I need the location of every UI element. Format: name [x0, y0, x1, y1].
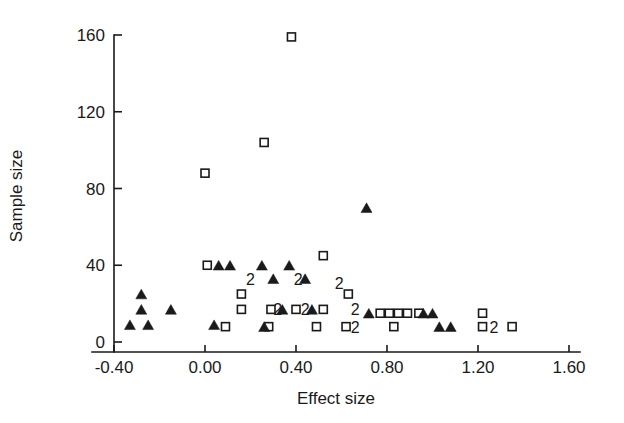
data-point-square [479, 309, 487, 317]
data-point-triangle [143, 320, 154, 330]
axis-ticks [114, 35, 569, 352]
data-point-square [287, 33, 295, 41]
data-point-square [237, 305, 245, 313]
y-tick-label: 160 [77, 26, 105, 45]
duplicate-count-label: 2 [246, 271, 255, 288]
data-point-square [508, 323, 516, 331]
data-point-square [385, 309, 393, 317]
data-point-square [390, 323, 398, 331]
data-point-triangle [268, 274, 279, 284]
scatter-plot-canvas: -0.400.000.400.801.201.60 04080120160 22… [0, 0, 624, 423]
data-point-triangle [363, 308, 374, 318]
x-tick-label: 1.20 [461, 358, 494, 377]
x-tick-label: 0.80 [370, 358, 403, 377]
data-point-square [319, 252, 327, 260]
duplicate-count-label: 2 [294, 271, 303, 288]
x-tick-label: -0.40 [95, 358, 134, 377]
data-point-triangle [434, 322, 445, 332]
data-point-square [292, 305, 300, 313]
data-point-triangle [136, 289, 147, 299]
data-point-square [394, 309, 402, 317]
y-axis-tick-labels: 04080120160 [77, 26, 105, 352]
data-point-square [312, 323, 320, 331]
data-point-triangle [361, 203, 372, 213]
duplicate-count-label: 2 [351, 319, 360, 336]
data-point-square [479, 323, 487, 331]
x-tick-label: 1.60 [552, 358, 585, 377]
data-point-triangle [165, 305, 176, 315]
data-point-square [319, 305, 327, 313]
x-axis-title: Effect size [297, 389, 375, 408]
data-point-square [221, 323, 229, 331]
data-point-triangle [209, 320, 220, 330]
data-point-triangle [284, 260, 295, 270]
data-point-square [342, 323, 350, 331]
data-point-square [376, 309, 384, 317]
data-point-square [203, 261, 211, 269]
data-point-square [403, 309, 411, 317]
scatter-plot-figure: -0.400.000.400.801.201.60 04080120160 22… [0, 0, 624, 423]
x-axis-tick-labels: -0.400.000.400.801.201.60 [95, 358, 586, 377]
duplicate-count-label: 2 [335, 275, 344, 292]
data-point-triangle [225, 260, 236, 270]
data-point-triangle [213, 260, 224, 270]
y-tick-label: 40 [86, 256, 105, 275]
duplicate-count-label: 2 [273, 301, 282, 318]
duplicate-count-label: 2 [489, 319, 498, 336]
y-tick-label: 80 [86, 180, 105, 199]
x-tick-label: 0.00 [188, 358, 221, 377]
data-point-triangle [124, 320, 135, 330]
y-axis-title: Sample size [7, 150, 26, 243]
data-point-triangle [136, 305, 147, 315]
y-tick-label: 120 [77, 103, 105, 122]
data-point-square [201, 169, 209, 177]
axes [92, 35, 580, 352]
data-point-square [260, 138, 268, 146]
y-tick-label: 0 [96, 333, 105, 352]
data-point-square [344, 290, 352, 298]
duplicate-count-label: 2 [351, 301, 360, 318]
data-point-triangle [427, 308, 438, 318]
data-point-square [237, 290, 245, 298]
x-tick-label: 0.40 [279, 358, 312, 377]
duplicate-count-label: 2 [301, 301, 310, 318]
data-markers [124, 33, 516, 332]
data-point-triangle [256, 260, 267, 270]
duplicate-count-labels: 22222222 [246, 271, 498, 336]
data-point-triangle [445, 322, 456, 332]
